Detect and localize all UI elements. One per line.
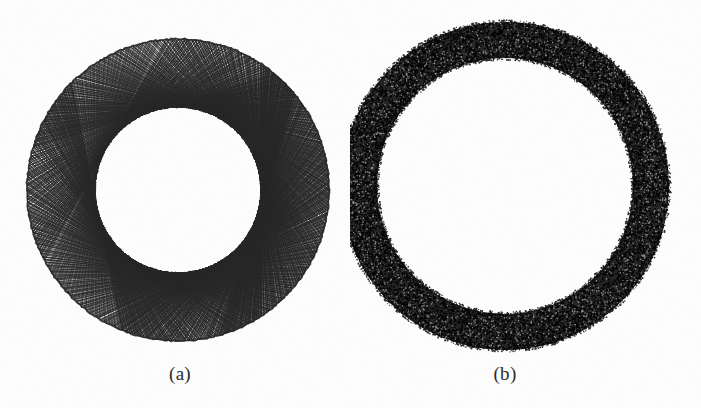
chord-lattice-group: [26, 38, 329, 341]
annulus-stipple-plot: [350, 0, 701, 408]
panel-b-caption: (b): [445, 364, 565, 383]
panel-a: (a): [0, 0, 350, 408]
panel-b: (b): [350, 0, 701, 408]
figure-root: (a) (b): [0, 0, 701, 408]
annulus-chord-lattice-plot: [0, 0, 350, 408]
panel-a-caption: (a): [120, 364, 240, 383]
stipple-points-group: [350, 19, 672, 352]
inner-boundary-ring: [94, 106, 261, 273]
